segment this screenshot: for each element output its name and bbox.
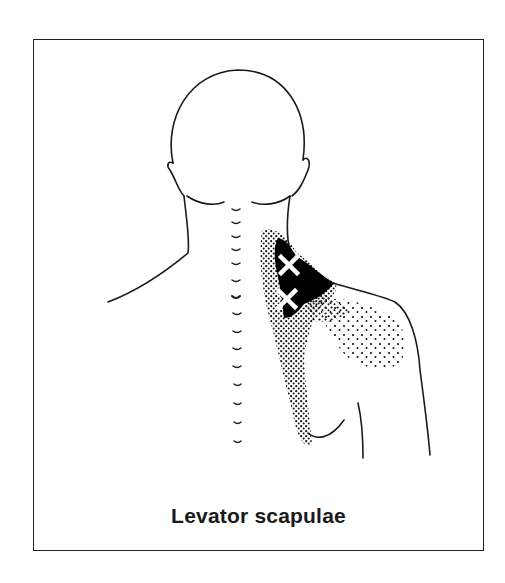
figure-caption: Levator scapulae: [33, 504, 484, 528]
spine-markers: [232, 209, 241, 443]
head-outline: [168, 70, 309, 204]
levator-scapulae-illustration: [0, 0, 505, 583]
